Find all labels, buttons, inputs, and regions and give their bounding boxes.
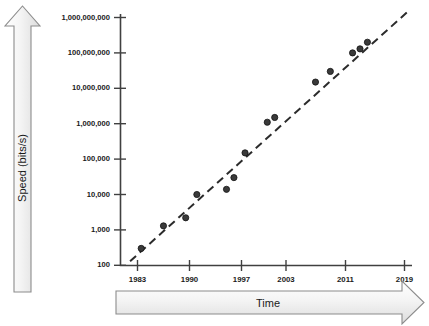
x-tick-label: 1997 [233,275,250,284]
x-tick-label: 1990 [181,275,199,284]
y-tick-label: 100 [97,260,110,269]
data-point [357,46,363,52]
data-point [312,79,318,85]
y-tick-label: 10,000,000 [72,83,110,92]
data-point [223,186,229,192]
y-tick-label: 1,000,000 [76,119,110,128]
data-point [364,39,370,45]
data-point [183,215,189,221]
chart-figure: Speed (bits/s) 1,000,000,000 100,000,000… [0,0,429,326]
data-point [264,119,270,125]
chart-svg: Speed (bits/s) 1,000,000,000 100,000,000… [0,0,429,326]
y-tick-label: 100,000,000 [68,48,110,57]
y-tick-label: 1,000,000,000 [61,13,110,22]
data-point [327,68,333,74]
data-point [242,150,248,156]
data-point [194,191,200,197]
x-tick-label: 2011 [337,275,355,284]
y-axis-title: Speed (bits/s) [16,134,28,202]
x-axis-title: Time [256,297,280,309]
x-tick-label: 2003 [277,275,295,284]
x-tick-label: 2019 [396,275,414,284]
scatter-points [138,39,370,251]
x-tick-label: 1983 [129,275,147,284]
x-axis-arrow: Time [116,281,424,324]
data-point [138,245,144,251]
data-point [272,114,278,120]
trend-line [130,11,408,261]
data-point [231,175,237,181]
y-tick-label: 10,000 [87,190,110,199]
x-axis-tick-labels: 1983 1990 1997 2003 2011 2019 [129,275,414,284]
y-axis-tick-labels: 1,000,000,000 100,000,000 10,000,000 1,0… [61,13,110,270]
y-tick-label: 100,000 [83,154,110,163]
data-point [160,223,166,229]
y-axis-arrow: Speed (bits/s) [5,6,40,292]
y-tick-label: 1,000 [91,225,110,234]
data-point [349,50,355,56]
